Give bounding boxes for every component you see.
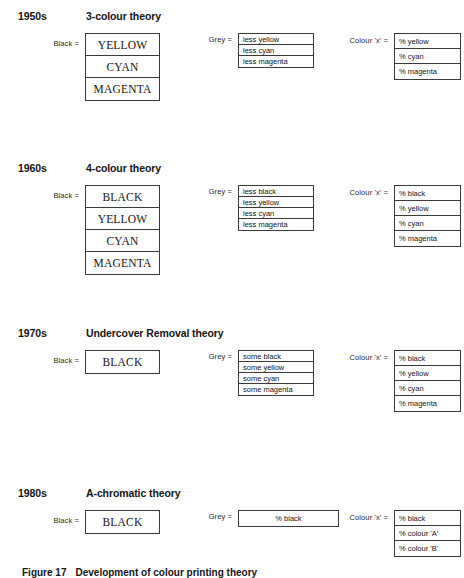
box-stack-black: BLACK [85,510,160,534]
box-cell: YELLOW [86,34,159,56]
box-cell: less yellow [239,34,313,45]
box-cell: BLACK [86,351,159,373]
box-stack-colour: % black% colour 'A'% colour 'B' [394,510,461,557]
section-1960s: 1960s4-colour theoryBlack =BLACKYELLOWCY… [0,162,464,178]
decade-label: 1980s [18,487,47,499]
column-label-black: Black = [53,356,79,365]
decade-label: 1970s [18,327,47,339]
box-cell: % cyan [395,216,460,231]
column-label-black: Black = [53,516,79,525]
box-cell: % yellow [395,34,460,49]
column-label-grey: Grey = [209,187,232,196]
box-cell: BLACK [86,186,159,208]
box-cell: some yellow [239,362,313,373]
box-cell: less cyan [239,208,313,219]
figure-caption: Figure 17Development of colour printing … [22,567,442,578]
box-stack-black: BLACKYELLOWCYANMAGENTA [85,185,160,275]
column-label-grey: Grey = [209,352,232,361]
box-cell: some cyan [239,373,313,384]
decade-label: 1950s [18,10,47,22]
column-label-colour: Colour 'x' = [350,353,388,362]
column-label-colour: Colour 'x' = [350,513,388,522]
section-header: 1960s4-colour theory [0,162,464,178]
column-label-colour: Colour 'x' = [350,188,388,197]
box-cell: less cyan [239,45,313,56]
box-cell: MAGENTA [86,252,159,274]
box-cell: less magenta [239,219,313,230]
box-stack-grey: % black [238,510,339,527]
box-cell: % black [239,511,338,526]
box-cell: CYAN [86,230,159,252]
column-label-grey: Grey = [209,512,232,521]
box-cell: less magenta [239,56,313,67]
box-cell: % cyan [395,381,460,396]
box-cell: CYAN [86,56,159,78]
box-cell: less black [239,186,313,197]
figure-number: Figure 17 [22,567,66,578]
box-cell: % black [395,186,460,201]
section-1950s: 1950s3-colour theoryBlack =YELLOWCYANMAG… [0,10,464,26]
box-cell: some black [239,351,313,362]
box-cell: % black [395,351,460,366]
theory-title: 3-colour theory [86,10,161,22]
section-header: 1950s3-colour theory [0,10,464,26]
box-cell: % cyan [395,49,460,64]
box-stack-grey: less blackless yellowless cyanless magen… [238,185,314,231]
box-cell: MAGENTA [86,78,159,100]
decade-label: 1960s [18,162,47,174]
box-stack-black: YELLOWCYANMAGENTA [85,33,160,101]
box-cell: % yellow [395,201,460,216]
section-1980s: 1980sA-chromatic theoryBlack =BLACKGrey … [0,487,464,503]
box-stack-grey: less yellowless cyanless magenta [238,33,314,68]
section-1970s: 1970sUndercover Removal theoryBlack =BLA… [0,327,464,343]
box-cell: BLACK [86,511,159,533]
column-label-colour: Colour 'x' = [350,36,388,45]
box-cell: % magenta [395,64,460,79]
box-cell: less yellow [239,197,313,208]
box-cell: % magenta [395,231,460,246]
box-stack-colour: % black% yellow% cyan% magenta [394,350,461,412]
box-cell: YELLOW [86,208,159,230]
box-stack-grey: some blacksome yellowsome cyansome magen… [238,350,314,396]
box-cell: % colour 'A' [395,526,460,541]
box-cell: some magenta [239,384,313,395]
figure-caption-text: Development of colour printing theory [75,567,257,578]
box-stack-colour: % yellow% cyan% magenta [394,33,461,80]
section-header: 1970sUndercover Removal theory [0,327,464,343]
theory-title: Undercover Removal theory [86,327,224,339]
box-cell: % yellow [395,366,460,381]
column-label-grey: Grey = [209,35,232,44]
box-cell: % black [395,511,460,526]
column-label-black: Black = [53,191,79,200]
box-stack-black: BLACK [85,350,160,374]
box-stack-colour: % black% yellow% cyan% magenta [394,185,461,247]
section-header: 1980sA-chromatic theory [0,487,464,503]
theory-title: 4-colour theory [86,162,161,174]
box-cell: % colour 'B' [395,541,460,556]
theory-title: A-chromatic theory [86,487,180,499]
column-label-black: Black = [53,39,79,48]
box-cell: % magenta [395,396,460,411]
